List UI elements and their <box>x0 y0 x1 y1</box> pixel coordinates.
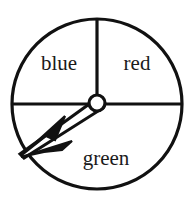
sector-label-blue: blue <box>41 51 77 75</box>
sector-label-green: green <box>83 146 130 170</box>
pointer-hub <box>89 95 105 111</box>
spinner-figure: blue red green <box>0 0 190 201</box>
spinner-graphic: blue red green <box>0 0 190 201</box>
sector-label-red: red <box>124 51 151 75</box>
